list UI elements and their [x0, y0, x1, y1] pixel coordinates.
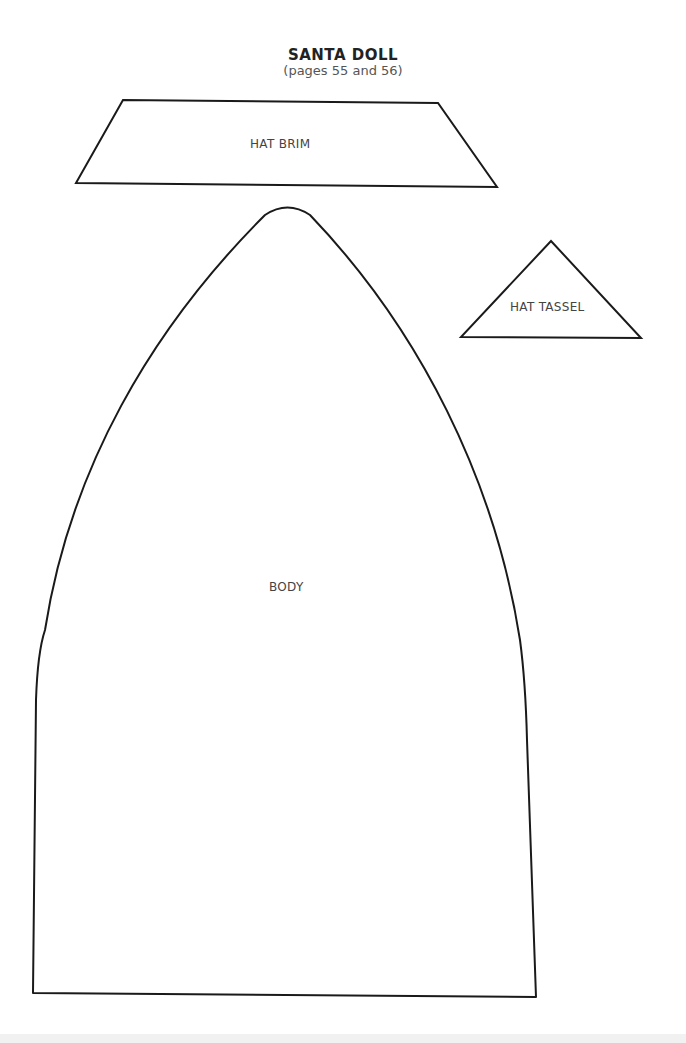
pattern-sheet	[0, 0, 686, 1043]
body-label: BODY	[269, 580, 304, 594]
hat-tassel-outline	[461, 241, 641, 338]
page-edge	[0, 1034, 686, 1043]
hat-tassel-label: HAT TASSEL	[510, 300, 585, 314]
hat-brim-label: HAT BRIM	[250, 137, 310, 151]
body-outline	[33, 208, 536, 998]
